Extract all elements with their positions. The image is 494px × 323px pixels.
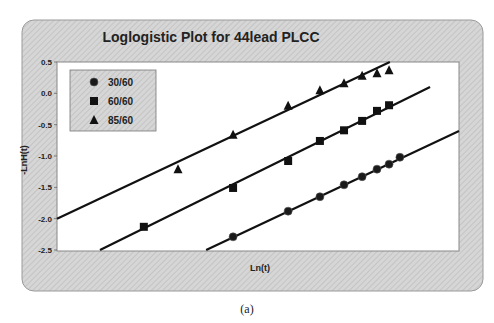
square-marker (316, 137, 324, 145)
square-marker (373, 107, 381, 115)
circle-marker (385, 160, 393, 168)
legend-label: 60/60 (108, 96, 133, 107)
legend-label: 85/60 (108, 115, 133, 126)
chart: Loglogistic Plot for 44lead PLCC Ln(t) -… (0, 0, 494, 323)
y-tick-label: -0.5 (38, 121, 52, 130)
y-tick-label: -1.0 (38, 152, 52, 161)
circle-marker (396, 153, 404, 161)
circle-marker (373, 165, 381, 173)
circle-marker (340, 181, 348, 189)
y-axis-label: -LnH(t) (19, 145, 29, 174)
circle-marker (358, 173, 366, 181)
y-tick-label: -1.5 (38, 183, 52, 192)
square-marker (90, 97, 98, 105)
circle-marker (90, 78, 98, 86)
figure-caption: (a) (0, 302, 494, 317)
chart-title: Loglogistic Plot for 44lead PLCC (102, 29, 319, 45)
square-marker (284, 157, 292, 165)
square-marker (140, 223, 148, 231)
y-tick-label: -2.0 (38, 215, 52, 224)
circle-marker (229, 233, 237, 241)
circle-marker (316, 193, 324, 201)
circle-marker (284, 207, 292, 215)
y-tick-label: 0.0 (41, 89, 53, 98)
square-marker (385, 101, 393, 109)
legend-label: 30/60 (108, 77, 133, 88)
y-tick-label: 0.5 (41, 58, 53, 67)
square-marker (229, 184, 237, 192)
square-marker (358, 117, 366, 125)
square-marker (340, 126, 348, 134)
legend: 30/6060/6085/60 (70, 70, 156, 131)
y-tick-label: -2.5 (38, 246, 52, 255)
x-axis-label: Ln(t) (250, 263, 270, 273)
